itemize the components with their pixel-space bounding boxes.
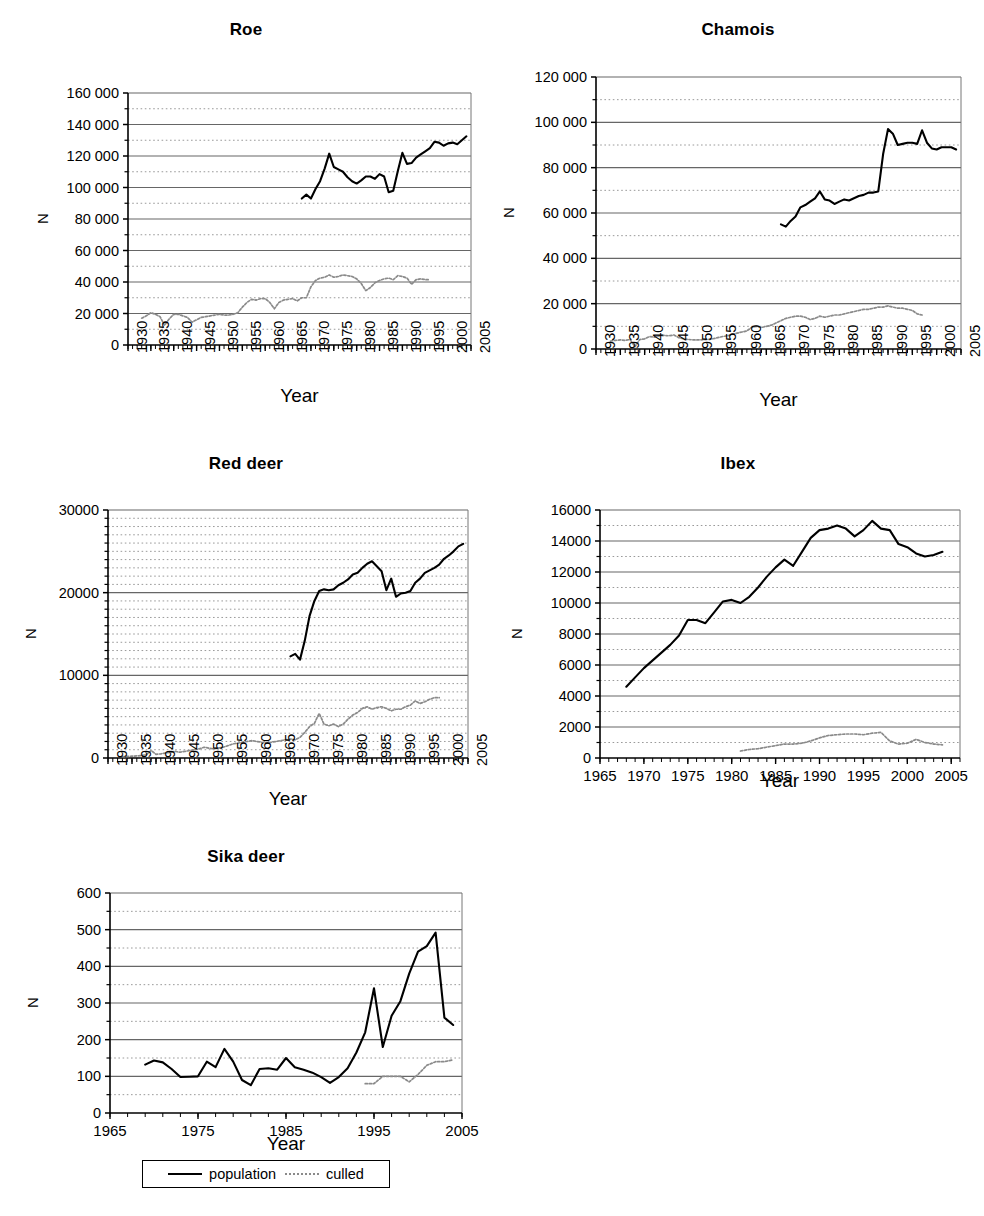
major-gridlines — [600, 510, 960, 727]
y-tick-label: 0 — [492, 341, 587, 357]
x-tick-label: 1995 — [426, 734, 442, 766]
panel-red-deer: Red deer 0100002000030000193019351940194… — [0, 440, 492, 840]
x-tick-label: 1985 — [869, 325, 885, 357]
legend-line-solid-icon — [168, 1173, 202, 1175]
x-tick-label: 1940 — [162, 734, 178, 766]
legend-label-population: population — [209, 1166, 276, 1182]
x-tick-marks — [110, 1113, 462, 1119]
x-tick-label: 1990 — [894, 325, 910, 357]
x-axis-label: Year — [600, 770, 960, 792]
series-culled — [740, 732, 942, 751]
x-tick-label: 2000 — [942, 325, 958, 357]
minor-gridlines — [108, 518, 468, 749]
x-tick-label: 1980 — [362, 321, 378, 353]
x-tick-label: 1945 — [186, 734, 202, 766]
y-tick-label: 16000 — [492, 502, 591, 518]
x-tick-label: 1995 — [918, 325, 934, 357]
x-tick-label: 1965 — [282, 734, 298, 766]
legend-line-dotted-icon — [285, 1173, 319, 1175]
y-tick-label: 100 000 — [492, 114, 587, 130]
y-tick-label: 10000 — [0, 667, 99, 683]
series-population — [626, 521, 942, 687]
x-tick-label: 1980 — [845, 325, 861, 357]
x-axis-label: Year — [128, 385, 471, 407]
x-tick-label: 1980 — [354, 734, 370, 766]
y-tick-label: 200 — [0, 1032, 101, 1048]
x-tick-label: 1995 — [431, 321, 447, 353]
x-tick-label: 1935 — [626, 325, 642, 357]
x-tick-label: 1955 — [248, 321, 264, 353]
panel-ibex: Ibex 02000400060008000100001200014000160… — [492, 440, 984, 840]
x-tick-label: 1960 — [271, 321, 287, 353]
y-tick-label: 40 000 — [0, 274, 119, 290]
x-tick-label: 1945 — [675, 325, 691, 357]
y-axis-label: N — [508, 624, 525, 644]
y-tick-label: 120 000 — [492, 69, 587, 85]
y-tick-label: 12000 — [492, 564, 591, 580]
x-tick-label: 1955 — [723, 325, 739, 357]
x-tick-label: 1975 — [821, 325, 837, 357]
x-tick-label: 1950 — [225, 321, 241, 353]
x-tick-label: 1985 — [385, 321, 401, 353]
major-gridlines — [108, 510, 468, 675]
y-tick-label: 0 — [0, 750, 99, 766]
x-tick-label: 1975 — [330, 734, 346, 766]
x-tick-label: 1970 — [316, 321, 332, 353]
x-tick-label: 1930 — [602, 325, 618, 357]
x-tick-label: 1985 — [378, 734, 394, 766]
y-tick-label: 600 — [0, 885, 101, 901]
plot-area-red-deer: 0100002000030000193019351940194519501955… — [0, 440, 492, 840]
panel-roe: Roe 020 00040 00060 00080 000100 000120 … — [0, 0, 492, 430]
x-tick-label: 2000 — [450, 734, 466, 766]
y-axis-label: N — [34, 209, 51, 229]
x-axis-label: Year — [596, 389, 961, 411]
y-tick-label: 40 000 — [492, 250, 587, 266]
legend-label-culled: culled — [326, 1166, 364, 1182]
x-tick-marks — [600, 758, 960, 764]
x-tick-label: 1935 — [156, 321, 172, 353]
x-tick-label: 1950 — [210, 734, 226, 766]
legend-item-population: population — [168, 1166, 276, 1182]
series-culled — [365, 1060, 453, 1084]
x-tick-label: 1945 — [202, 321, 218, 353]
x-tick-label: 1965 — [772, 325, 788, 357]
plot-area-ibex: 0200040006000800010000120001400016000196… — [492, 440, 984, 840]
y-tick-label: 400 — [0, 958, 101, 974]
x-tick-label: 1975 — [339, 321, 355, 353]
x-axis-label: Year — [110, 1133, 462, 1155]
y-tick-label: 20 000 — [492, 296, 587, 312]
y-tick-label: 30000 — [0, 502, 99, 518]
x-tick-label: 1990 — [408, 321, 424, 353]
plot-area-roe: 020 00040 00060 00080 000100 000120 0001… — [0, 0, 492, 430]
y-tick-label: 0 — [0, 337, 119, 353]
y-tick-label: 120 000 — [0, 148, 119, 164]
y-axis-label: N — [24, 993, 41, 1013]
y-tick-label: 6000 — [492, 657, 591, 673]
x-tick-label: 1940 — [179, 321, 195, 353]
x-tick-label: 1960 — [748, 325, 764, 357]
multi-panel-figure: Roe 020 00040 00060 00080 000100 000120 … — [0, 0, 984, 1216]
y-tick-label: 500 — [0, 922, 101, 938]
x-tick-label: 1930 — [134, 321, 150, 353]
series-population — [145, 933, 453, 1086]
panel-sika-deer: Sika deer 010020030040050060019651975198… — [0, 845, 492, 1175]
x-tick-label: 1930 — [114, 734, 130, 766]
y-tick-label: 2000 — [492, 719, 591, 735]
plot-area-chamois: 020 00040 00060 00080 000100 000120 0001… — [492, 0, 984, 430]
chart-svg — [0, 440, 492, 840]
y-tick-label: 0 — [492, 750, 591, 766]
x-tick-label: 1970 — [306, 734, 322, 766]
plot-area-sika-deer: 010020030040050060019651975198519952005N… — [0, 845, 492, 1175]
y-tick-label: 80 000 — [492, 160, 587, 176]
x-tick-label: 2005 — [477, 321, 493, 353]
x-tick-label: 1935 — [138, 734, 154, 766]
x-tick-label: 1940 — [650, 325, 666, 357]
y-tick-label: 4000 — [492, 688, 591, 704]
y-tick-label: 20000 — [0, 585, 99, 601]
x-tick-label: 1990 — [402, 734, 418, 766]
y-tick-label: 20 000 — [0, 306, 119, 322]
y-tick-label: 80 000 — [0, 211, 119, 227]
x-tick-label: 1955 — [234, 734, 250, 766]
y-tick-label: 300 — [0, 995, 101, 1011]
y-tick-label: 100 — [0, 1068, 101, 1084]
